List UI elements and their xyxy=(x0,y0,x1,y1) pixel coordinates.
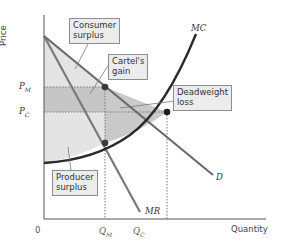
qm-main: Q xyxy=(99,226,106,236)
qm-sub: M xyxy=(106,231,112,238)
demand-curve-label: D xyxy=(216,173,223,182)
producer-surplus-region xyxy=(44,112,105,163)
pm-label: PM xyxy=(19,82,31,93)
monopoly-point xyxy=(102,84,109,91)
consumer-surplus-leader xyxy=(75,44,88,69)
qc-label: QC xyxy=(133,227,145,238)
consumer-surplus-line2: surplus xyxy=(73,31,116,41)
mc-curve-label: MC xyxy=(191,24,206,33)
deadweight-loss-callout: Deadweight loss xyxy=(173,85,232,111)
cartel-gain-line2: gain xyxy=(112,67,144,77)
mr-mc-point xyxy=(102,140,109,147)
cartel-gain-callout: Cartel's gain xyxy=(108,54,148,80)
origin-label: 0 xyxy=(35,226,40,235)
pm-sub: M xyxy=(25,86,31,93)
x-axis-title: Quantity xyxy=(231,225,268,234)
deadweight-loss-region xyxy=(105,87,167,143)
deadweight-loss-line2: loss xyxy=(177,98,228,108)
qc-sub: C xyxy=(140,231,145,238)
competitive-point xyxy=(164,109,171,116)
qm-label: QM xyxy=(99,227,112,238)
qc-main: Q xyxy=(133,226,140,236)
y-axis-title: Price xyxy=(0,25,8,46)
pc-label: PC xyxy=(19,107,29,118)
producer-surplus-callout: Producer surplus xyxy=(52,170,98,196)
mr-curve-label: MR xyxy=(145,207,160,216)
consumer-surplus-callout: Consumer surplus xyxy=(69,18,120,44)
producer-surplus-line2: surplus xyxy=(56,183,94,193)
pc-sub: C xyxy=(25,111,30,118)
cartel-chart xyxy=(0,0,286,249)
